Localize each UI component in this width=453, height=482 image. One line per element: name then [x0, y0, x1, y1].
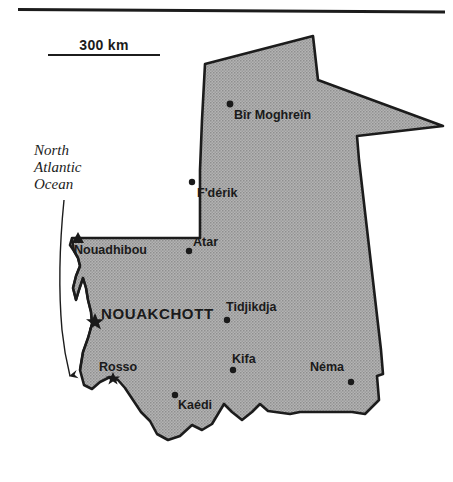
city-marker-fderik [189, 179, 195, 185]
city-label-f-d-rik: F'dérik [197, 186, 238, 200]
scale-bar-group: 300 km [48, 38, 160, 56]
city-marker-tidjikdja [224, 317, 230, 323]
city-label-nouakchott: NOUAKCHOTT [101, 305, 214, 322]
city-label-rosso: Rosso [99, 360, 137, 374]
city-label-tidjikdja: Tidjikdja [226, 300, 276, 314]
city-label-kifa: Kifa [232, 352, 256, 366]
city-marker-atar [186, 248, 192, 254]
city-label-nouadhibou: Nouadhibou [74, 243, 147, 257]
city-label-b-r-moghre-n: Bîr Moghreïn [234, 108, 311, 122]
ocean-label: North Atlantic Ocean [34, 142, 82, 193]
scale-bar-line [48, 54, 160, 56]
city-marker-bir-moghrein [227, 101, 234, 108]
mauritania-map-graphic [0, 0, 453, 482]
city-marker-kifa [230, 367, 236, 373]
scale-label: 300 km [48, 38, 160, 53]
country-landmass [70, 36, 443, 440]
ocean-direction-arrow [60, 200, 70, 376]
city-label-n-ma: Néma [310, 360, 344, 374]
city-label-ka-di: Kaédi [178, 398, 212, 412]
map-figure: 300 km North Atlantic Ocean Bîr Moghreïn… [0, 0, 453, 482]
city-marker-nema [348, 379, 354, 385]
city-label-atar: Atar [193, 235, 218, 249]
